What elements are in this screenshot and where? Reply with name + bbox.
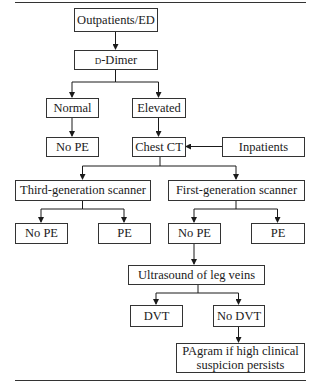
node-label: No PE [178,226,211,240]
node-label: PE [271,226,286,240]
node-label: Third-generation scanner [20,183,146,197]
node-d-dimer: d-Dimer [74,50,158,70]
node-inpatients: Inpatients [222,137,305,157]
node-normal: Normal [46,98,99,118]
node-label: Elevated [137,101,181,115]
node-label: Ultrasound of leg veins [138,268,255,282]
node-label: No PE [25,226,58,240]
node-first-no-pe: No PE [168,223,221,244]
node-label: No PE [56,140,89,154]
node-label: Outpatients/ED [77,13,155,27]
node-label: DVT [144,309,170,323]
node-label-line2: suspicion persists [197,358,285,372]
node-no-dvt: No DVT [213,305,265,327]
node-ultrasound-leg-veins: Ultrasound of leg veins [128,265,265,285]
node-no-pe-normal: No PE [46,137,99,157]
node-label: First-generation scanner [176,183,297,197]
node-label: Chest CT [135,140,183,154]
node-third-no-pe: No PE [15,223,68,244]
node-dvt: DVT [130,305,183,327]
node-first-pe: PE [251,223,305,244]
node-chest-ct: Chest CT [132,137,186,157]
node-label: Inpatients [239,140,288,154]
node-outpatients-ed: Outpatients/ED [74,8,158,32]
node-label: d-Dimer [95,53,138,67]
node-third-generation-scanner: Third-generation scanner [15,180,151,201]
node-elevated: Elevated [132,98,186,118]
node-pagram: PAgram if high clinical suspicion persis… [176,343,305,373]
node-label: Normal [53,101,91,115]
node-label: PE [117,226,132,240]
node-label: No DVT [217,309,261,323]
node-first-generation-scanner: First-generation scanner [168,180,305,201]
node-label-line1: PAgram if high clinical [182,344,299,358]
node-third-pe: PE [98,223,151,244]
